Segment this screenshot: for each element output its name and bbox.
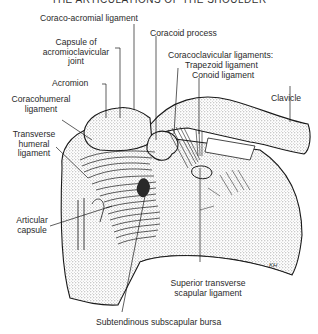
label-superior-transverse-scapular-ligament: Superior transverse scapular ligament	[165, 279, 251, 298]
label-coraco-acromial-ligament: Coraco-acromial ligament	[40, 14, 138, 24]
label-coracoid-process: Coracoid process	[150, 29, 217, 39]
label-articular-capsule: Articular capsule	[12, 216, 52, 235]
artist-signature: KH	[269, 262, 278, 268]
acromion-shape	[84, 108, 152, 151]
label-transverse-humeral-ligament: Transverse humeral ligament	[8, 130, 60, 159]
label-acromion: Acromion	[52, 79, 88, 89]
label-capsule-acromioclavicular: Capsule of acromioclavicular joint	[36, 38, 116, 67]
label-subtendinous-subscapular-bursa: Subtendinous subscapular bursa	[96, 318, 221, 328]
label-coracohumeral-ligament: Coracohumeral ligament	[10, 95, 72, 114]
label-conoid-ligament: Conoid ligament	[192, 71, 254, 81]
label-clavicle: Clavicle	[271, 94, 301, 104]
